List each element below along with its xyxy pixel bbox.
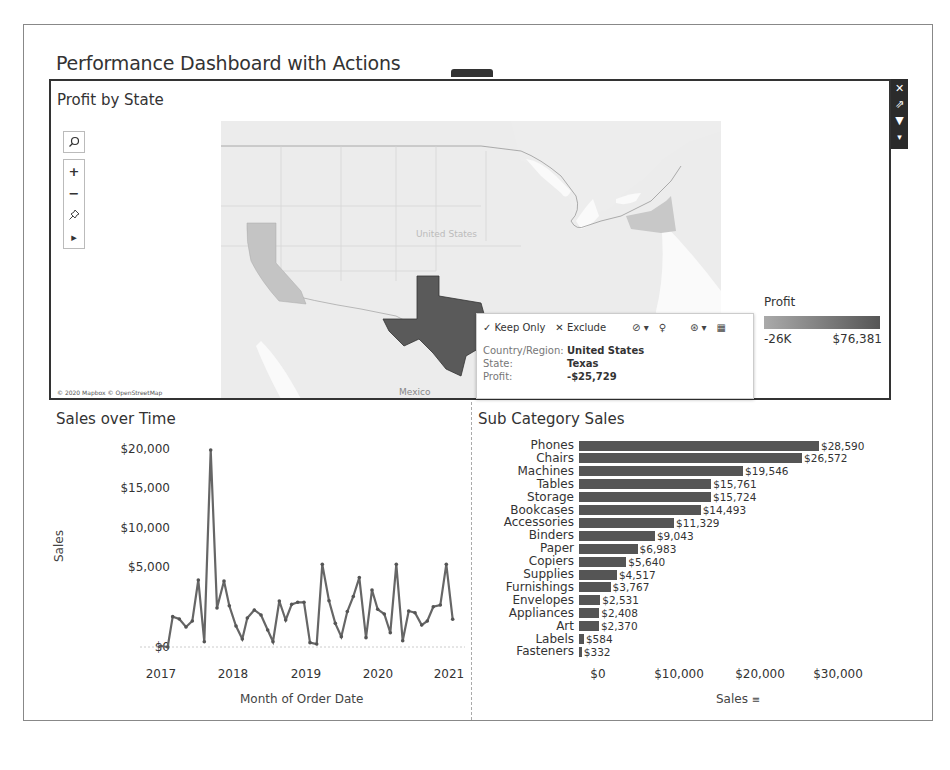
exclude-button[interactable]: ✕ Exclude [555, 322, 606, 333]
map-worksheet[interactable]: Profit by State United States Mexico [49, 79, 891, 400]
bar[interactable] [579, 466, 743, 476]
data-point[interactable] [321, 563, 325, 567]
data-point[interactable] [445, 563, 449, 567]
data-point[interactable] [302, 600, 306, 604]
bar[interactable] [579, 570, 617, 580]
bar-row[interactable]: Storage$15,724 [476, 492, 756, 503]
data-point[interactable] [358, 576, 362, 580]
bar-row[interactable]: Labels$584 [476, 634, 613, 645]
bar[interactable] [579, 505, 701, 515]
data-point[interactable] [222, 579, 226, 583]
data-point[interactable] [340, 635, 344, 639]
data-point[interactable] [439, 603, 443, 607]
sales-line-plot[interactable] [50, 430, 470, 660]
data-point[interactable] [315, 642, 319, 646]
data-point[interactable] [246, 616, 250, 620]
data-point[interactable] [171, 615, 175, 619]
bar-row[interactable]: Appliances$2,408 [476, 608, 638, 619]
data-point[interactable] [407, 609, 411, 613]
data-point[interactable] [278, 599, 282, 603]
data-point[interactable] [184, 625, 188, 629]
bar[interactable] [579, 453, 802, 463]
sort-icon[interactable]: ≡ [752, 694, 760, 705]
bar-row[interactable]: Copiers$5,640 [476, 556, 665, 567]
bar-row[interactable]: Fasteners$332 [476, 646, 611, 657]
data-point[interactable] [241, 637, 245, 641]
group-members-icon[interactable]: ⊘ ▾ [632, 322, 649, 333]
drag-handle[interactable] [451, 69, 493, 77]
data-point[interactable] [334, 622, 338, 626]
data-point[interactable] [271, 640, 275, 644]
bar-row[interactable]: Tables$15,761 [476, 479, 757, 490]
data-point[interactable] [451, 618, 455, 622]
data-point[interactable] [228, 604, 232, 608]
data-point[interactable] [432, 605, 436, 609]
bar-row[interactable]: Chairs$26,572 [476, 453, 847, 464]
bar[interactable] [579, 441, 819, 451]
data-point[interactable] [197, 578, 201, 582]
data-point[interactable] [426, 619, 430, 623]
data-point[interactable] [253, 608, 257, 612]
data-point[interactable] [420, 623, 424, 627]
data-point[interactable] [284, 618, 288, 622]
bar-row[interactable]: Phones$28,590 [476, 440, 864, 451]
map-search-button[interactable] [64, 132, 84, 152]
bar[interactable] [579, 557, 626, 567]
goto-sheet-icon[interactable]: ⇗ [895, 97, 904, 113]
expand-tools-button[interactable]: ▸ [64, 226, 84, 248]
data-point[interactable] [178, 617, 182, 621]
data-point[interactable] [203, 640, 207, 644]
bar-row[interactable]: Bookcases$14,493 [476, 505, 746, 516]
bar-row[interactable]: Binders$9,043 [476, 530, 694, 541]
data-point[interactable] [308, 641, 312, 645]
keep-only-button[interactable]: ✓ Keep Only [483, 322, 545, 333]
bar[interactable] [579, 531, 655, 541]
data-point[interactable] [389, 631, 393, 635]
data-point[interactable] [364, 636, 368, 640]
sales-over-time-chart[interactable]: $20,000 $15,000 $10,000 $5,000 $0 Sales … [50, 430, 470, 720]
pin-icon[interactable]: ♀ [659, 322, 666, 333]
data-point[interactable] [370, 588, 374, 592]
bar[interactable] [579, 608, 599, 618]
data-point[interactable] [191, 619, 195, 623]
zoom-out-button[interactable]: − [64, 182, 84, 204]
data-point[interactable] [259, 613, 263, 617]
data-point[interactable] [376, 607, 380, 611]
bar[interactable] [579, 544, 638, 554]
data-point[interactable] [209, 448, 213, 452]
close-icon[interactable]: ✕ [895, 81, 904, 97]
pin-map-button[interactable] [64, 204, 84, 226]
filter-icon[interactable]: ▼ [895, 113, 903, 129]
create-set-icon[interactable]: ⊛ ▾ [690, 322, 707, 333]
data-point[interactable] [327, 599, 331, 603]
more-options-icon[interactable]: ▾ [897, 129, 902, 145]
bar[interactable] [579, 479, 711, 489]
data-point[interactable] [395, 563, 399, 567]
bar[interactable] [579, 492, 711, 502]
data-point[interactable] [266, 628, 270, 632]
sales-line[interactable] [161, 450, 453, 647]
map-attribution[interactable]: © 2020 Mapbox © OpenStreetMap [57, 389, 162, 396]
data-point[interactable] [352, 595, 356, 599]
data-point[interactable] [346, 610, 350, 614]
bar[interactable] [579, 518, 674, 528]
bar-row[interactable]: Furnishings$3,767 [476, 582, 649, 593]
bar[interactable] [579, 634, 584, 644]
data-point[interactable] [413, 611, 417, 615]
bar-row[interactable]: Envelopes$2,531 [476, 595, 639, 606]
data-point[interactable] [290, 603, 294, 607]
bar[interactable] [579, 647, 582, 657]
bar-row[interactable]: Machines$19,546 [476, 466, 789, 477]
bar-row[interactable]: Art$2,370 [476, 621, 638, 632]
data-point[interactable] [215, 606, 219, 610]
data-point[interactable] [159, 644, 163, 648]
data-point[interactable] [296, 600, 300, 604]
data-point[interactable] [383, 612, 387, 616]
bar-row[interactable]: Paper$6,983 [476, 543, 676, 554]
data-point[interactable] [166, 645, 170, 649]
view-data-icon[interactable]: ▦ [717, 322, 726, 333]
zoom-in-button[interactable]: + [64, 160, 84, 182]
sub-category-sales-chart[interactable]: Phones$28,590Chairs$26,572Machines$19,54… [476, 430, 916, 720]
bar-row[interactable]: Accessories$11,329 [476, 517, 720, 528]
data-point[interactable] [401, 639, 405, 643]
